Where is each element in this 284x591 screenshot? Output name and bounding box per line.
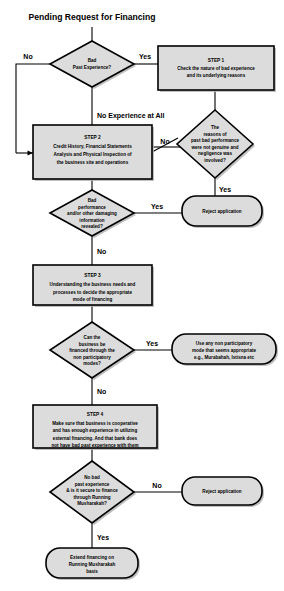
label-nonparticipatory-line-2: financed through the [69, 348, 115, 353]
label-step-1-line-1: and its underlying reasons [187, 73, 246, 78]
edge-label-step2-to-reasons-no: No [160, 138, 169, 145]
label-step-2-line-2: the business site and operations [57, 160, 129, 165]
label-reasons-line-3: were not genuine and [190, 145, 238, 150]
flowchart-canvas: Pending Request for Financing Bad Past E… [0, 0, 284, 591]
label-musharakah-line-2: & is it secure to finance [66, 488, 118, 493]
label-reject-1: Reject application [202, 209, 242, 214]
label-reasons-line-1: reasons of [203, 132, 227, 137]
terminator-use-non-participatory-mode[interactable]: Use any non participatory mode that seem… [172, 334, 278, 366]
label-reject-2: Reject application [202, 489, 242, 494]
label-step-4-line-1: and has enough experience in utilizing [53, 428, 138, 433]
label-step-2-line-0: Credit History, Financial Statements [53, 144, 132, 149]
label-step-4-heading: STEP 4 [87, 412, 104, 417]
label-nonparticipatory-line-3: non participatory [73, 355, 111, 360]
label-reasons-line-4: negligence was [198, 151, 232, 156]
label-bad-past-experience-line-1: Past Experience? [73, 65, 111, 70]
edge-label-reasons-yes: Yes [219, 186, 231, 193]
label-performance-line-1: performance [78, 205, 106, 210]
edge-label-musharakah-yes: Yes [97, 534, 109, 541]
label-performance-line-4: revealed? [81, 224, 103, 229]
process-step-3[interactable]: STEP 3 Understanding the business needs … [33, 265, 154, 307]
page-title: Pending Request for Financing [28, 12, 155, 22]
process-step-2[interactable]: STEP 2 Credit History, Financial Stateme… [33, 125, 154, 181]
edge-label-bad-experience-no: No [23, 53, 32, 60]
process-step-1[interactable]: STEP 1 Check the nature of bad experienc… [158, 46, 276, 92]
label-nonparticipatory-line-0: Can the [84, 335, 101, 340]
label-step-4-line-2: external financing. And that bank does [53, 436, 138, 441]
label-performance-line-0: Bad [88, 198, 97, 203]
label-musharakah-line-1: past experience [75, 482, 110, 487]
label-step-4-line-3: not have bad past experience with them [51, 443, 138, 448]
label-nonparticipatory-line-4: modes? [83, 361, 101, 366]
terminator-extend-financing[interactable]: Extend financing on Running Musharakah b… [46, 548, 140, 580]
label-reasons-line-2: past bad performance [191, 138, 239, 143]
label-step-1-heading: STEP 1 [208, 58, 225, 63]
edge-label-bad-performance-yes: Yes [151, 203, 163, 210]
label-step-2-heading: STEP 2 [84, 135, 101, 140]
decision-reasons-not-genuine[interactable]: The reasons of past bad performance were… [177, 110, 255, 180]
label-reasons-line-0: The [211, 125, 220, 130]
decision-bad-performance-revealed[interactable]: Bad performance and/or other damaging in… [50, 190, 136, 238]
label-musharakah-line-0: No bad [84, 475, 100, 480]
label-step-3-heading: STEP 3 [84, 273, 101, 278]
arrowhead-into-step2 [28, 151, 34, 156]
label-step-3-line-0: Understanding the business needs and [50, 282, 136, 287]
label-use-mode-line-2: e.g., Murabahah, Istisna etc [194, 355, 254, 360]
decision-bad-past-experience[interactable]: Bad Past Experience? [50, 41, 136, 89]
label-extend-line-1: Running Musharakah [69, 562, 116, 567]
edge-label-no-experience-at-all: No Experience at All [97, 112, 164, 120]
label-performance-line-2: and/or other damaging [67, 211, 117, 216]
financing-decision-flowchart: Pending Request for Financing Bad Past E… [0, 0, 284, 591]
edge-label-musharakah-no: No [152, 482, 161, 489]
edge-label-bad-experience-yes: Yes [139, 53, 151, 60]
label-step-2-line-1: Analysis and Physical Inspection of [53, 152, 132, 157]
label-bad-past-experience-line-0: Bad [88, 58, 97, 63]
edge-label-non-participatory-yes: Yes [146, 340, 158, 347]
edge-label-bad-performance-no: No [97, 248, 106, 255]
terminator-reject-application-1[interactable]: Reject application [182, 196, 264, 228]
label-nonparticipatory-line-1: business be [79, 342, 106, 347]
label-performance-line-3: information [79, 218, 104, 223]
label-musharakah-line-4: Musharakah? [77, 501, 107, 506]
label-extend-line-2: basis [86, 569, 98, 574]
label-use-mode-line-0: Use any non participatory [196, 341, 253, 346]
decision-non-participatory-modes[interactable]: Can the business be financed through the… [50, 322, 136, 380]
decision-secure-running-musharakah[interactable]: No bad past experience & is it secure to… [50, 461, 136, 525]
label-extend-line-0: Extend financing on [70, 555, 114, 560]
process-step-4[interactable]: STEP 4 Make sure that business is cooper… [33, 405, 159, 450]
label-step-1-line-0: Check the nature of bad experience [177, 66, 255, 71]
label-musharakah-line-3: through Running [73, 495, 110, 500]
label-step-3-line-2: mode of financing [73, 297, 113, 302]
label-step-4-line-0: Make sure that business is cooperative [52, 421, 138, 426]
edge-label-non-participatory-no: No [97, 388, 106, 395]
label-use-mode-line-1: mode that seems appropriate [192, 348, 257, 353]
terminator-reject-application-2[interactable]: Reject application [182, 477, 264, 507]
label-reasons-line-5: involved? [204, 158, 226, 163]
label-step-3-line-1: processes to decide the appropriate [53, 290, 132, 295]
